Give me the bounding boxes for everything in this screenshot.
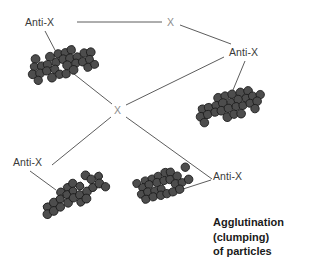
- clump-top-left: [24, 39, 100, 87]
- label-antigen-top: X: [167, 16, 174, 28]
- caption-line-1: Agglutination: [213, 215, 284, 230]
- clump-bottom-left: [35, 164, 112, 227]
- label-antibody-top-left: Anti-X: [25, 16, 54, 28]
- link-x-center-to-right: [126, 57, 224, 105]
- clump-bottom-center: [131, 161, 196, 207]
- label-antigen-center: X: [114, 104, 121, 116]
- link-x-center-to-bottomleft: [52, 117, 111, 165]
- label-antibody-right: Anti-X: [229, 46, 258, 58]
- label-antibody-bottom-left: Anti-X: [13, 156, 42, 168]
- link-x-center-to-topleft: [74, 74, 112, 104]
- leader-antix-bottomleft: [30, 171, 56, 190]
- caption-agglutination: Agglutination (clumping) of particles: [213, 215, 284, 259]
- leader-antix-right: [233, 61, 245, 90]
- particle: [180, 162, 191, 173]
- clump-right: [192, 82, 269, 128]
- caption-line-3: of particles: [213, 244, 284, 259]
- diagram-canvas: Anti-X X Anti-X X Anti-X Anti-X Agglutin…: [0, 0, 316, 261]
- label-antibody-bottom-right: Anti-X: [213, 170, 242, 182]
- particle-clumps: [24, 39, 269, 226]
- link-x-top-to-antix-right: [180, 25, 231, 44]
- caption-line-2: (clumping): [213, 230, 284, 245]
- leader-antix-topleft: [45, 31, 56, 52]
